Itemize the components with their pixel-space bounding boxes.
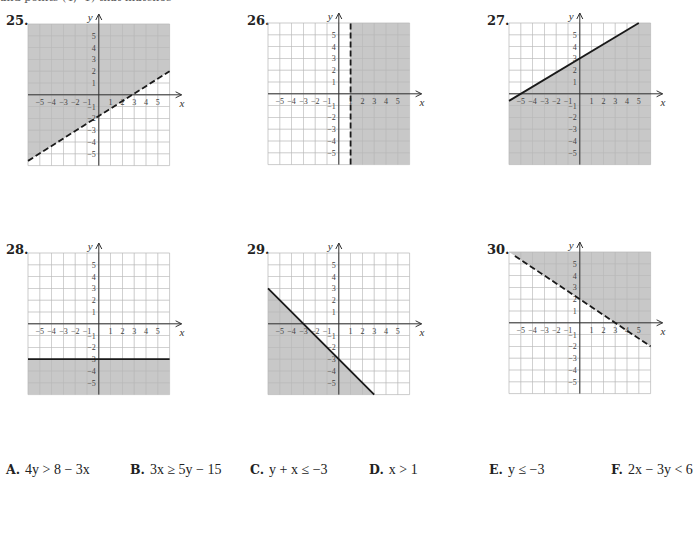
y-axis-label: y [87,11,93,23]
x-tick-label: 3 [132,327,136,336]
inequality-graph: xy−5−4−3−2−11234512345−1−2−3−4−5 [8,233,190,415]
partial-header-text: and points (4, -1) that matches [0,0,220,3]
y-tick-label: 3 [92,56,96,65]
y-axis-label: y [568,10,574,22]
choice-b: B.3x ≥ 5y − 15 [130,462,222,478]
choice-letter: B. [130,462,145,477]
y-tick-label: 2 [92,296,96,305]
choice-letter: D. [369,462,384,477]
y-tick-label: −1 [87,332,96,341]
x-axis-label: x [419,96,425,108]
y-tick-label: 5 [332,261,336,270]
x-tick-label: −5 [276,327,285,336]
x-tick-label: −2 [552,97,561,106]
y-axis-label: y [327,10,333,22]
y-tick-label: 3 [92,285,96,294]
x-tick-label: 2 [361,327,365,336]
x-tick-label: 5 [396,327,400,336]
choice-expression: 4y > 8 − 3x [25,462,90,477]
x-tick-label: −2 [311,97,320,106]
y-tick-label: 1 [573,78,577,87]
y-tick-label: −3 [568,354,577,363]
y-tick-label: −4 [327,137,336,146]
y-tick-label: 4 [332,43,336,52]
y-tick-label: −4 [87,367,96,376]
y-tick-label: −2 [87,344,96,353]
x-tick-label: −5 [517,326,526,335]
y-tick-label: −2 [87,115,96,124]
x-tick-label: −3 [59,327,68,336]
x-tick-label: 4 [625,326,629,335]
choice-a: A.4y > 8 − 3x [6,462,90,478]
choice-letter: E. [489,462,503,477]
y-tick-label: −4 [327,367,336,376]
x-tick-label: −4 [529,97,538,106]
x-tick-label: −4 [288,97,297,106]
choice-expression: y ≤ −3 [508,462,545,477]
y-tick-label: −4 [568,366,577,375]
x-tick-label: 5 [637,97,641,106]
y-tick-label: −5 [87,150,96,159]
x-tick-label: −3 [540,97,549,106]
x-axis-label: x [179,97,185,109]
inequality-graph: xy−5−4−3−2−11234512345−1−2−3−4−5 [489,232,671,414]
y-axis-label: y [327,240,333,252]
choice-d: D.x > 1 [369,462,418,478]
x-tick-label: 2 [602,97,606,106]
y-tick-label: 5 [332,31,336,40]
x-tick-label: 1 [109,98,113,107]
choice-letter: F. [611,462,623,477]
y-tick-label: −3 [327,125,336,134]
answer-choices: A.4y > 8 − 3x B.3x ≥ 5y − 15 C.y + x ≤ −… [0,462,695,482]
y-tick-label: −1 [327,332,336,341]
y-tick-label: 1 [92,308,96,317]
x-tick-label: 2 [602,326,606,335]
x-tick-label: 5 [156,98,160,107]
y-tick-label: −2 [327,114,336,123]
x-tick-label: 2 [121,327,125,336]
choice-letter: A. [6,462,20,477]
x-tick-label: 5 [156,327,160,336]
x-tick-label: −5 [276,97,285,106]
x-tick-label: 1 [590,97,594,106]
y-tick-label: 2 [332,296,336,305]
x-tick-label: −4 [48,98,57,107]
x-tick-label: 4 [384,97,388,106]
y-axis-label: y [87,240,93,252]
x-tick-label: −3 [299,97,308,106]
y-tick-label: 5 [92,32,96,41]
inequality-graph: xy−5−4−3−2−11234512345−1−2−3−4−5 [489,3,671,185]
x-tick-label: 4 [144,327,148,336]
x-tick-label: −3 [299,327,308,336]
y-tick-label: 2 [332,66,336,75]
y-tick-label: −4 [87,138,96,147]
choice-expression: y + x ≤ −3 [269,462,327,477]
inequality-graph: xy−5−4−3−2−11234512345−1−2−3−4−5 [8,4,190,186]
y-tick-label: −1 [568,331,577,340]
x-tick-label: 5 [396,97,400,106]
y-tick-label: 3 [332,285,336,294]
y-tick-label: 2 [573,66,577,75]
y-tick-label: 5 [573,260,577,269]
y-tick-label: −1 [327,102,336,111]
x-axis-label: x [419,326,425,338]
x-tick-label: −2 [71,98,80,107]
y-tick-label: 4 [332,273,336,282]
x-tick-label: 4 [144,98,148,107]
y-tick-label: 1 [332,308,336,317]
y-tick-label: −5 [327,149,336,158]
y-tick-label: −1 [568,102,577,111]
choice-f: F.2x − 3y < 6 [611,462,693,478]
x-tick-label: 3 [372,327,376,336]
x-axis-label: x [179,326,185,338]
y-tick-label: −5 [327,379,336,388]
x-axis-label: x [660,96,666,108]
y-tick-label: 4 [573,272,577,281]
x-tick-label: 4 [384,327,388,336]
y-tick-label: 5 [92,261,96,270]
x-tick-label: 4 [625,97,629,106]
y-tick-label: 2 [92,67,96,76]
inequality-graph: xy−5−4−3−2−11234512345−1−2−3−4−5 [248,233,430,415]
y-tick-label: 4 [92,273,96,282]
y-tick-label: 4 [573,43,577,52]
